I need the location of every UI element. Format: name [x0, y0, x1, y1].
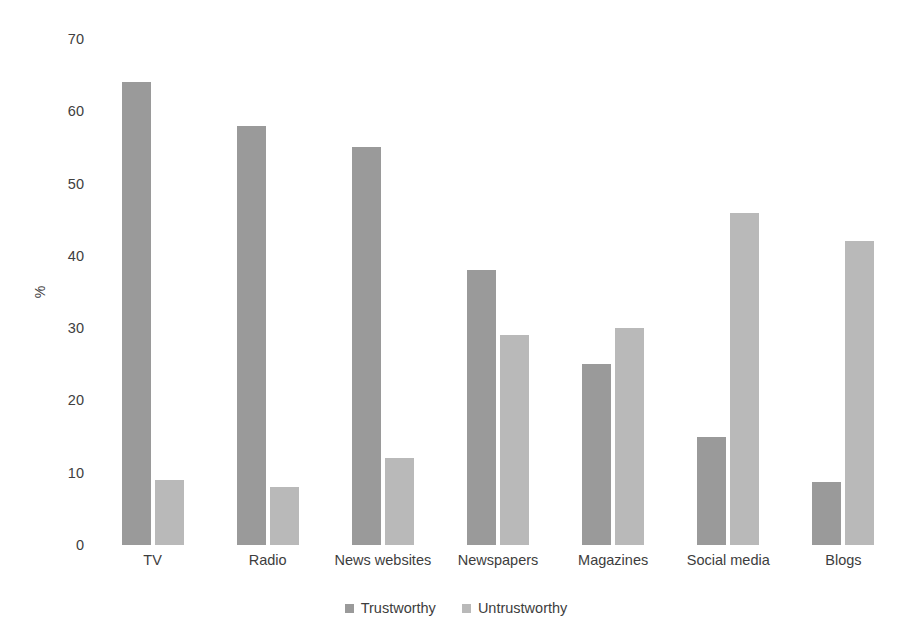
y-tick-label: 50 — [38, 176, 84, 191]
bar-untrustworthy-magazines — [615, 328, 644, 545]
bar-untrustworthy-tv — [155, 480, 184, 545]
bar-group — [812, 39, 874, 545]
legend-item[interactable]: Untrustworthy — [462, 600, 567, 616]
bar-group — [352, 39, 414, 545]
bar-untrustworthy-social-media — [730, 213, 759, 546]
bar-untrustworthy-newspapers — [500, 335, 529, 545]
x-tick-label: Radio — [249, 552, 287, 568]
y-tick-label: 60 — [38, 104, 84, 119]
y-tick-label: 30 — [38, 321, 84, 336]
y-axis-tick-labels: 706050403020100 — [38, 28, 84, 568]
legend-item[interactable]: Trustworthy — [345, 600, 436, 616]
x-tick-label: Blogs — [825, 552, 861, 568]
bar-trustworthy-radio — [237, 126, 266, 545]
bar-trustworthy-news-websites — [352, 147, 381, 545]
bar-trustworthy-blogs — [812, 482, 841, 545]
bar-untrustworthy-blogs — [845, 241, 874, 545]
bar-group — [237, 39, 299, 545]
y-tick-label: 0 — [38, 538, 84, 553]
x-tick-label: News websites — [334, 552, 431, 568]
x-tick-label: TV — [143, 552, 162, 568]
legend-label: Untrustworthy — [478, 600, 567, 616]
y-tick-label: 40 — [38, 249, 84, 264]
bar-untrustworthy-radio — [270, 487, 299, 545]
bar-trustworthy-tv — [122, 82, 151, 545]
y-tick-label: 70 — [38, 32, 84, 47]
bar-untrustworthy-news-websites — [385, 458, 414, 545]
x-tick-label: Magazines — [578, 552, 648, 568]
bar-group — [467, 39, 529, 545]
bar-group — [582, 39, 644, 545]
bar-trustworthy-newspapers — [467, 270, 496, 545]
bar-chart: % 706050403020100 TVRadioNews websitesNe… — [0, 0, 912, 639]
bar-trustworthy-magazines — [582, 364, 611, 545]
bar-trustworthy-social-media — [697, 437, 726, 545]
plot-area — [95, 39, 901, 545]
y-tick-label: 10 — [38, 465, 84, 480]
legend-swatch-icon — [462, 604, 471, 613]
bar-group — [122, 39, 184, 545]
bar-group — [697, 39, 759, 545]
legend-label: Trustworthy — [361, 600, 436, 616]
x-axis-tick-labels: TVRadioNews websitesNewspapersMagazinesS… — [95, 552, 901, 578]
y-tick-label: 20 — [38, 393, 84, 408]
legend-swatch-icon — [345, 604, 354, 613]
x-tick-label: Newspapers — [458, 552, 539, 568]
x-tick-label: Social media — [687, 552, 770, 568]
chart-legend: TrustworthyUntrustworthy — [0, 600, 912, 616]
